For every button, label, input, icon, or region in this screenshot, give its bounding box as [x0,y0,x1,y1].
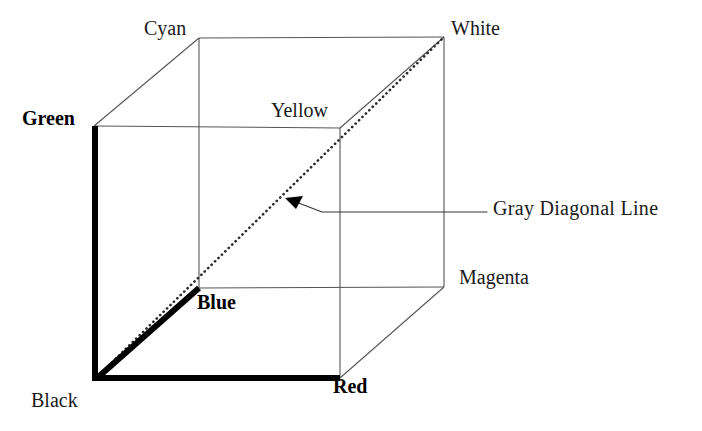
axis-edge-black-blue [96,288,199,379]
vertex-label-cyan: Cyan [144,18,186,38]
edge-cyan-white [199,37,444,38]
callout-leader-path [296,202,487,212]
vertex-label-magenta: Magenta [459,267,529,287]
vertex-label-white: White [451,18,500,38]
vertex-label-red: Red [333,376,367,396]
vertex-label-yellow: Yellow [271,100,328,120]
callout-leader [285,196,487,212]
edge-yellow-white [340,37,444,128]
rgb-color-cube-figure: Green Cyan White Yellow Magenta Blue Red… [0,0,702,431]
vertex-label-black: Black [31,390,78,410]
vertex-label-blue: Blue [197,292,236,312]
edge-green-yellow [94,126,340,128]
gray-diagonal-line [95,38,443,379]
edge-green-cyan [94,38,199,126]
vertex-label-green: Green [22,108,75,128]
callout-label-gray-diagonal-line: Gray Diagonal Line [493,198,658,218]
edge-magenta-blue [199,287,444,288]
callout-arrowhead-icon [285,196,303,209]
edge-red-magenta [340,287,444,378]
